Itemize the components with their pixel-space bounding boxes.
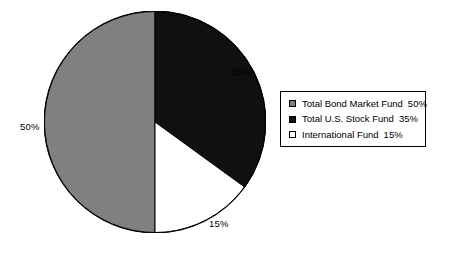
pie-label-total-us-stock-fund: 35% (231, 66, 251, 77)
pie-chart (44, 11, 266, 233)
pie-slice-total-bond-market-fund (44, 11, 155, 233)
legend-percent-total-bond-market-fund: 50% (408, 99, 427, 109)
pie-chart-figure: 50% 35% 15% Total Bond Market Fund 50% T… (0, 0, 464, 257)
legend-label-international-fund: International Fund (302, 130, 379, 140)
legend-swatch-white-icon (289, 131, 296, 138)
legend-swatch-black-icon (289, 116, 296, 123)
legend-percent-international-fund: 15% (384, 130, 403, 140)
legend-item-total-bond-market-fund: Total Bond Market Fund 50% (289, 97, 418, 110)
chart-legend: Total Bond Market Fund 50% Total U.S. St… (280, 91, 426, 147)
legend-item-international-fund: International Fund 15% (289, 128, 418, 141)
legend-label-total-bond-market-fund: Total Bond Market Fund (302, 99, 403, 109)
pie-chart-svg (44, 11, 266, 233)
pie-label-international-fund: 15% (209, 218, 229, 229)
legend-percent-total-us-stock-fund: 35% (399, 114, 418, 124)
pie-label-total-bond-market-fund: 50% (20, 121, 40, 132)
legend-label-total-us-stock-fund: Total U.S. Stock Fund (302, 114, 394, 124)
legend-item-total-us-stock-fund: Total U.S. Stock Fund 35% (289, 113, 418, 126)
legend-swatch-gray-icon (289, 100, 296, 107)
